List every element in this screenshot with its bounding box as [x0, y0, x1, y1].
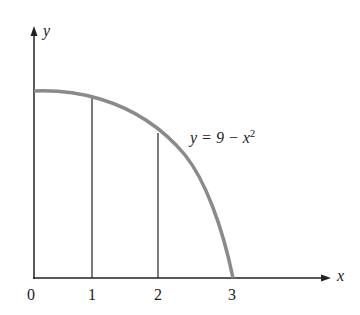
curve-label-text: y = 9 − x	[190, 129, 250, 146]
x-tick-1: 1	[88, 286, 96, 304]
curve-label-exponent: 2	[250, 127, 256, 139]
curve-label: y = 9 − x2	[182, 109, 255, 147]
x-axis-arrow-icon	[321, 275, 331, 282]
x-tick-0: 0	[27, 286, 35, 304]
chart-canvas	[0, 0, 360, 315]
x-tick-3: 3	[228, 286, 236, 304]
y-axis-label: y	[43, 22, 50, 40]
x-axis-label: x	[337, 267, 344, 285]
y-axis-arrow-icon	[31, 26, 38, 36]
x-tick-2: 2	[154, 286, 162, 304]
